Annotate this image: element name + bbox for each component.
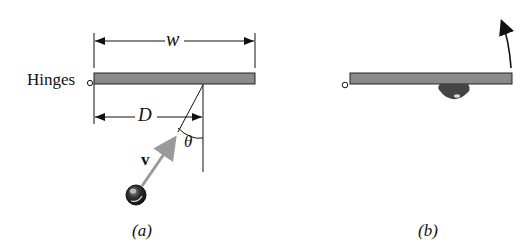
hinge-icon-b bbox=[342, 82, 348, 88]
putty-blob-icon bbox=[438, 84, 469, 99]
caption-b: (b) bbox=[418, 221, 438, 241]
diagram-canvas: Hinges w D v θ (a) (b) bbox=[0, 0, 527, 249]
plate-b bbox=[350, 73, 512, 84]
putty-highlight bbox=[454, 94, 460, 98]
velocity-label: v bbox=[141, 150, 150, 170]
panel-b bbox=[342, 22, 512, 99]
trajectory-line bbox=[178, 85, 203, 132]
distance-label: D bbox=[138, 104, 152, 126]
panel-a bbox=[87, 33, 255, 205]
caption-a: (a) bbox=[132, 221, 152, 241]
ball-icon bbox=[126, 185, 146, 205]
hinges-label: Hinges bbox=[27, 70, 75, 90]
hinge-icon bbox=[87, 80, 92, 85]
plate bbox=[94, 73, 255, 84]
angle-label: θ bbox=[184, 132, 192, 152]
width-label: w bbox=[166, 28, 179, 51]
rotation-arrow-icon bbox=[502, 22, 511, 68]
diagram-svg bbox=[0, 0, 527, 249]
